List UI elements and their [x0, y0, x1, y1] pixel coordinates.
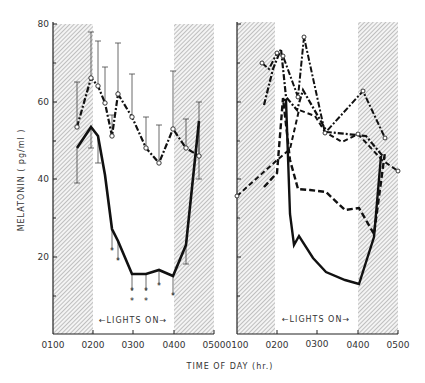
svg-text:*: * — [144, 287, 148, 296]
lights-on-label: ←LIGHTS ON→ — [282, 315, 350, 324]
x-tick-label: 0500 — [387, 340, 410, 350]
x-tick-label: 0400 — [163, 340, 186, 350]
y-tick-label: 60 — [38, 97, 50, 107]
svg-text:*: * — [130, 287, 134, 296]
x-tick-label: 0100 — [42, 340, 65, 350]
melatonin-figure: 80 60 40 20 0100 0200 0300 0400 0500 ←LI… — [0, 0, 425, 383]
x-tick-label: 0200 — [266, 340, 289, 350]
svg-text:*: * — [116, 257, 120, 266]
svg-text:*: * — [157, 282, 161, 291]
significance-asterisks: ** ** ** ** — [110, 247, 175, 306]
left-panel: 80 60 40 20 0100 0200 0300 0400 0500 ←LI… — [17, 19, 226, 350]
x-tick-label: 0100 — [226, 340, 249, 350]
svg-text:*: * — [130, 297, 134, 306]
x-axis-label: TIME OF DAY (hr.) — [186, 362, 274, 371]
svg-text:*: * — [110, 247, 114, 256]
svg-text:*: * — [144, 297, 148, 306]
y-tick-label: 20 — [38, 252, 50, 262]
lights-on-label: ←LIGHTS ON→ — [99, 316, 167, 325]
dark-period-shade — [53, 24, 93, 334]
svg-text:*: * — [171, 292, 175, 301]
y-tick-label: 80 — [38, 19, 50, 29]
y-axis-label: MELATONIN ( pg/ml ) — [17, 129, 26, 232]
x-tick-label: 0300 — [122, 340, 145, 350]
x-tick-label: 0300 — [306, 339, 329, 349]
x-tick-label: 0200 — [82, 340, 105, 350]
x-tick-label: 0400 — [347, 340, 370, 350]
y-tick-label: 40 — [38, 174, 50, 184]
right-panel: 0100 0200 0300 0400 0500 ←LIGHTS ON→ — [226, 22, 410, 350]
x-tick-label: 0500 — [203, 340, 226, 350]
